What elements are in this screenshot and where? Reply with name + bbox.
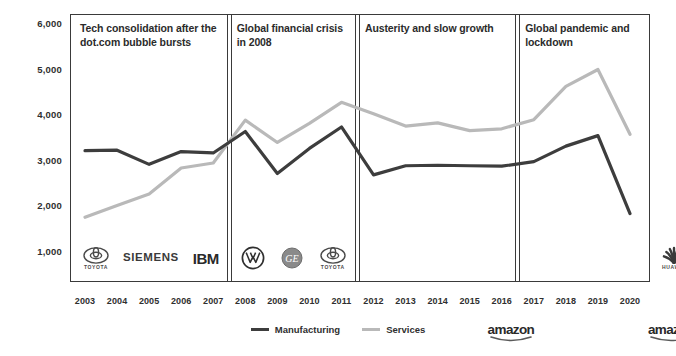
toyota-logo: TOYOTA	[83, 247, 109, 270]
x-axis-tick-2006: 2006	[171, 296, 191, 306]
x-axis-tick-2011: 2011	[332, 296, 352, 306]
x-axis-tick-2015: 2015	[459, 296, 479, 306]
panel-3: Austerity and slow growthamazonHUAWEInmc	[355, 14, 520, 282]
panel-logos: amazonHUAWEInmc	[356, 241, 519, 275]
legend-label: Manufacturing	[275, 324, 340, 335]
y-axis-tick-2000: 2,000	[37, 200, 62, 211]
x-axis-tick-2017: 2017	[524, 296, 544, 306]
amazon-logo: amazon	[521, 173, 676, 344]
svg-text:GE: GE	[286, 253, 299, 264]
ibm-logo: IBM	[193, 251, 219, 266]
volkswagen-logo	[241, 246, 265, 270]
panel-2: Global financial crisis in 2008GETOYOTA	[227, 14, 360, 282]
panel-title: Austerity and slow growth	[365, 22, 513, 36]
x-axis-tick-2020: 2020	[620, 296, 640, 306]
x-axis-tick-2008: 2008	[235, 296, 255, 306]
panel-title: Global financial crisis in 2008	[237, 22, 353, 50]
x-axis-tick-2016: 2016	[492, 296, 512, 306]
y-axis-tick-1000: 1,000	[37, 246, 62, 257]
legend-swatch-services	[362, 328, 380, 332]
x-axis-tick-2019: 2019	[588, 296, 608, 306]
ge-logo: GE	[281, 247, 303, 269]
panel-logos: amazonHUAWEIenel	[516, 241, 649, 275]
x-axis: 2003200420052006200720082009201020112012…	[70, 296, 650, 312]
y-axis-tick-5000: 5,000	[37, 63, 62, 74]
x-axis-tick-2004: 2004	[107, 296, 127, 306]
y-axis-tick-6000: 6,000	[37, 18, 62, 29]
x-axis-tick-2012: 2012	[363, 296, 383, 306]
toyota-oval-icon	[320, 247, 346, 264]
y-axis-tick-4000: 4,000	[37, 109, 62, 120]
chart-root: 1,0002,0003,0004,0005,0006,000 Tech cons…	[0, 0, 676, 356]
panel-title: Tech consolidation after the dot.com bub…	[80, 22, 225, 50]
toyota-logo-text: TOYOTA	[84, 265, 108, 270]
vw-circle-icon	[241, 246, 265, 270]
toyota-oval-icon	[83, 247, 109, 264]
legend-item-services: Services	[362, 324, 425, 335]
chart-legend: ManufacturingServices	[0, 324, 676, 335]
ibm-logo-text: IBM	[193, 251, 219, 266]
amazon-smile-icon	[649, 336, 676, 343]
x-axis-tick-2003: 2003	[75, 296, 95, 306]
panel-1: Tech consolidation after the dot.com bub…	[70, 14, 232, 282]
y-axis-tick-3000: 3,000	[37, 154, 62, 165]
panel-4: Global pandemic and lockdownamazonHUAWEI…	[515, 14, 650, 282]
x-axis-tick-2018: 2018	[556, 296, 576, 306]
legend-item-manufacturing: Manufacturing	[251, 324, 340, 335]
legend-swatch-manufacturing	[251, 328, 269, 332]
toyota-logo: TOYOTA	[320, 247, 346, 270]
x-axis-tick-2005: 2005	[139, 296, 159, 306]
siemens-logo: SIEMENS	[123, 252, 179, 264]
panel-logos: TOYOTASIEMENSIBM	[71, 241, 231, 275]
x-axis-tick-2010: 2010	[299, 296, 319, 306]
legend-label: Services	[386, 324, 425, 335]
x-axis-tick-2013: 2013	[395, 296, 415, 306]
y-axis: 1,0002,0003,0004,0005,0006,000	[0, 0, 70, 300]
ge-circle-icon: GE	[281, 247, 303, 269]
x-axis-tick-2009: 2009	[267, 296, 287, 306]
x-axis-tick-2014: 2014	[427, 296, 447, 306]
plot-area: Tech consolidation after the dot.com bub…	[70, 14, 650, 282]
panel-title: Global pandemic and lockdown	[525, 22, 643, 50]
panel-logos: GETOYOTA	[228, 241, 359, 275]
toyota-logo-text: TOYOTA	[321, 265, 345, 270]
siemens-logo-text: SIEMENS	[123, 252, 179, 264]
x-axis-tick-2007: 2007	[203, 296, 223, 306]
